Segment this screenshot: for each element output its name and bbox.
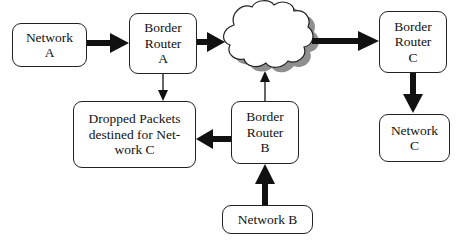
arrow-router-a-to-dropped <box>158 73 168 101</box>
node-network-b: Network B <box>222 205 313 234</box>
arrow-router-b-to-dropped <box>196 129 231 149</box>
cloud-icon <box>224 1 319 73</box>
arrow-router-a-to-cloud <box>197 32 225 52</box>
arrow-network-b-to-router-b <box>255 164 275 205</box>
arrow-router-b-to-cloud <box>260 71 270 101</box>
arrow-network-a-to-router-a <box>87 33 129 53</box>
arrow-cloud-to-router-c <box>312 31 379 51</box>
node-network-c: Network C <box>379 114 450 162</box>
node-border-router-b: Border Router B <box>231 101 299 164</box>
node-border-router-c: Border Router C <box>379 11 447 73</box>
node-network-a: Network A <box>12 23 87 67</box>
node-dropped-packets: Dropped Packets destined for Net- work C <box>73 101 196 168</box>
node-border-router-a: Border Router A <box>129 13 197 74</box>
arrow-router-c-to-network-c <box>403 73 423 113</box>
